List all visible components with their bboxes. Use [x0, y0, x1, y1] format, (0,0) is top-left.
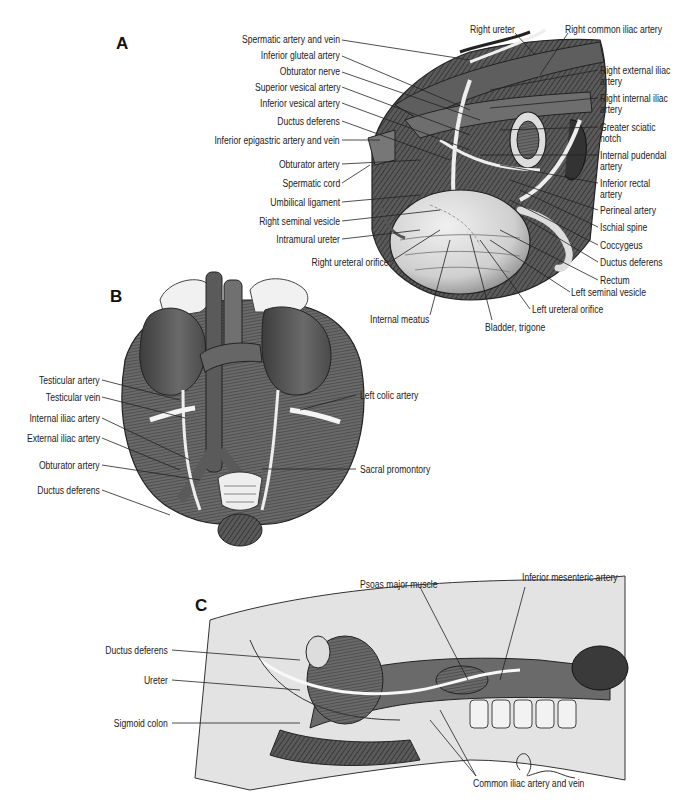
label-internal-iliac-artery: Internal iliac artery — [30, 413, 100, 424]
label-obturator-artery-a: Obturator artery — [279, 159, 340, 170]
label-perineal-artery: Perineal artery — [600, 205, 656, 216]
label-right-ureteral-orifice: Right ureteral orifice — [311, 257, 388, 268]
label-intramural-ureter: Intramural ureter — [276, 234, 340, 245]
label-ductus-deferens-a: Ductus deferens — [277, 116, 340, 127]
label-right-internal-iliac-artery: Right internal iliac artery — [600, 93, 669, 115]
panel-c-letter: C — [195, 596, 207, 616]
panel-c-art — [195, 576, 628, 790]
label-umbilical-ligament: Umbilical ligament — [270, 197, 340, 208]
label-bladder-trigone: Bladder, trigone — [485, 322, 545, 333]
label-inferior-epigastric: Inferior epigastric artery and vein — [215, 135, 340, 146]
label-obturator-nerve: Obturator nerve — [280, 66, 340, 77]
label-inferior-gluteal-artery: Inferior gluteal artery — [261, 50, 340, 61]
label-spermatic-cord: Spermatic cord — [282, 178, 340, 189]
label-left-colic-artery: Left colic artery — [360, 390, 418, 401]
label-coccygeus: Coccygeus — [600, 240, 643, 251]
label-psoas-major-muscle: Psoas major muscle — [360, 579, 437, 590]
label-left-seminal-vesicle: Left seminal vesicle — [571, 287, 646, 298]
label-internal-meatus: Internal meatus — [370, 314, 429, 325]
label-internal-pudendal-artery: Internal pudendal artery — [600, 150, 669, 172]
label-common-iliac-artery-vein: Common iliac artery and vein — [473, 778, 584, 789]
label-obturator-artery-b: Obturator artery — [39, 460, 100, 471]
label-left-ureteral-orifice: Left ureteral orifice — [532, 304, 603, 315]
panel-b-letter: B — [110, 287, 122, 307]
label-right-seminal-vesicle: Right seminal vesicle — [259, 216, 340, 227]
label-superior-vesical-artery: Superior vesical artery — [254, 82, 340, 93]
label-ischial-spine: Ischial spine — [600, 222, 647, 233]
label-right-ureter: Right ureter — [470, 24, 515, 35]
label-rectum: Rectum — [600, 275, 630, 286]
label-right-common-iliac-artery: Right common iliac artery — [565, 24, 662, 35]
label-sigmoid-colon: Sigmoid colon — [114, 718, 168, 729]
label-ductus-deferens-a-right: Ductus deferens — [600, 257, 663, 268]
label-ductus-deferens-b: Ductus deferens — [37, 485, 100, 496]
label-inferior-mesenteric-artery: Inferior mesenteric artery — [522, 572, 618, 583]
label-testicular-vein: Testicular vein — [46, 392, 100, 403]
panel-b-art — [122, 272, 364, 546]
panel-a-letter: A — [116, 34, 128, 54]
label-inferior-rectal-artery: Inferior rectal artery — [600, 178, 660, 200]
label-sacral-promontory: Sacral promontory — [360, 464, 430, 475]
label-ureter: Ureter — [144, 675, 168, 686]
label-greater-sciatic-notch: Greater sciatic notch — [600, 122, 660, 144]
label-inferior-vesical-artery: Inferior vesical artery — [260, 98, 340, 109]
label-testicular-artery: Testicular artery — [39, 375, 100, 386]
anatomy-illustration — [0, 0, 680, 806]
panel-a-art — [368, 30, 606, 300]
label-external-iliac-artery: External iliac artery — [27, 433, 100, 444]
label-ductus-deferens-c: Ductus deferens — [105, 645, 168, 656]
label-right-external-iliac-artery: Right external iliac artery — [600, 65, 677, 87]
label-spermatic-artery-vein: Spermatic artery and vein — [242, 34, 340, 45]
